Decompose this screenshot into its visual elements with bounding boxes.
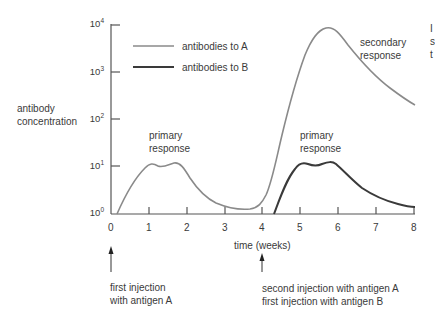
note-second-injection-line2: first injection with antigen B [262,295,383,308]
clipped-text-line2: s [430,35,435,48]
annotation-primary-1-line1: primary [149,129,182,142]
clipped-text-line1: I [430,22,433,35]
note-first-injection-line1: first injection [110,281,166,294]
annotation-primary-1-line2: response [149,142,190,155]
x-tick-label-6: 6 [335,222,341,233]
x-tick-label-1: 1 [146,222,152,233]
annotation-primary-2-line2: response [300,142,341,155]
x-tick-label-7: 7 [373,222,379,233]
x-tick-label-8: 8 [411,222,417,233]
x-tick-label-5: 5 [297,222,303,233]
y-axis-ticks [111,25,120,166]
x-tick-label-3: 3 [222,222,228,233]
y-tick-label-0: 100 [78,206,104,218]
x-axis-title: time (weeks) [234,239,291,252]
x-axis-ticks [149,207,414,214]
y-tick-label-3: 103 [78,65,104,77]
annotation-primary-2-line1: primary [300,129,333,142]
y-axis-title-line2: concentration [17,115,77,128]
note-first-injection-line2: with antigen A [110,294,172,307]
x-tick-label-2: 2 [184,222,190,233]
clipped-text-line3: t [430,48,433,61]
legend-label-a: antibodies to A [182,40,248,53]
x-tick-label-4: 4 [259,222,265,233]
arrow-first-injection [109,246,114,272]
y-tick-label-2: 102 [78,112,104,124]
y-tick-label-4: 104 [78,17,104,29]
y-tick-label-1: 101 [78,159,104,171]
series-antibodies-b [274,162,415,214]
x-tick-label-0: 0 [108,222,114,233]
y-axis-title-line1: antibody [17,102,55,115]
annotation-secondary-line1: secondary [360,36,406,49]
legend-label-b: antibodies to B [182,61,248,74]
arrow-second-injection [260,253,265,272]
annotation-secondary-line2: response [360,49,401,62]
note-second-injection-line1: second injection with antigen A [262,282,399,295]
